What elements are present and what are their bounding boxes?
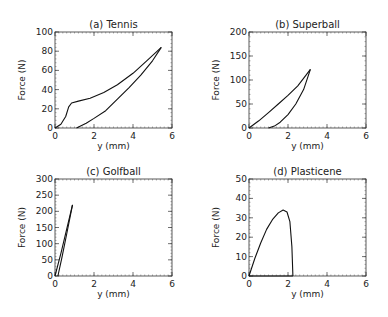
x-tick-label: 4 (324, 131, 330, 141)
x-tick-label: 0 (52, 279, 58, 289)
series-loading (249, 69, 310, 128)
x-tick-label: 6 (169, 131, 175, 141)
y-tick-label: 80 (42, 46, 54, 56)
x-tick-label: 2 (285, 279, 291, 289)
subplot-1: 0246050100150200(b) Superbally (mm)Force… (211, 19, 369, 151)
y-tick-label: 20 (236, 232, 248, 242)
y-tick-label: 30 (236, 213, 248, 223)
subplot-2: 0246050100150200250300(c) Golfbally (mm)… (17, 166, 175, 299)
y-tick-label: 150 (36, 223, 53, 233)
x-tick-label: 6 (169, 279, 175, 289)
x-tick-label: 4 (324, 279, 330, 289)
x-tick-label: 0 (246, 279, 252, 289)
x-tick-label: 0 (246, 131, 252, 141)
series-loading (249, 210, 293, 276)
y-axis-label: Force (N) (211, 207, 221, 248)
y-tick-label: 100 (36, 239, 53, 249)
x-tick-label: 2 (285, 131, 291, 141)
y-tick-label: 40 (236, 193, 248, 203)
y-tick-label: 0 (47, 123, 53, 133)
x-axis-label: y (mm) (291, 289, 324, 299)
axes-frame (249, 179, 366, 276)
subplot-title: (d) Plasticene (273, 166, 341, 177)
x-tick-label: 6 (363, 131, 369, 141)
series-loading (55, 47, 161, 128)
y-tick-label: 0 (241, 271, 247, 281)
y-tick-label: 200 (230, 27, 247, 37)
axes-frame (55, 32, 172, 128)
y-tick-label: 200 (36, 206, 53, 216)
figure-4-panel-force-plots: 0246020406080100(a) Tennisy (mm)Force (N… (0, 0, 388, 317)
x-tick-label: 2 (91, 279, 97, 289)
subplot-title: (b) Superball (275, 19, 340, 30)
y-tick-label: 150 (230, 51, 247, 61)
y-tick-label: 0 (241, 123, 247, 133)
y-axis-label: Force (N) (17, 207, 27, 248)
x-axis-label: y (mm) (97, 141, 130, 151)
y-tick-label: 60 (42, 65, 54, 75)
y-tick-label: 50 (42, 255, 54, 265)
y-tick-label: 100 (36, 27, 53, 37)
axes-frame (55, 179, 172, 276)
x-tick-label: 2 (91, 131, 97, 141)
series-unloading (58, 205, 73, 276)
y-tick-label: 50 (236, 99, 248, 109)
x-tick-label: 0 (52, 131, 58, 141)
x-axis-label: y (mm) (291, 141, 324, 151)
y-tick-label: 40 (42, 85, 54, 95)
x-axis-label: y (mm) (97, 289, 130, 299)
y-tick-label: 10 (236, 252, 248, 262)
y-axis-label: Force (N) (17, 60, 27, 101)
y-tick-label: 0 (47, 271, 53, 281)
x-tick-label: 6 (363, 279, 369, 289)
y-tick-label: 50 (236, 174, 248, 184)
subplot-title: (c) Golfball (86, 166, 141, 177)
y-tick-label: 300 (36, 174, 53, 184)
subplot-0: 0246020406080100(a) Tennisy (mm)Force (N… (17, 19, 175, 151)
subplot-title: (a) Tennis (89, 19, 137, 30)
x-tick-label: 4 (130, 279, 136, 289)
subplot-3: 024601020304050(d) Plasticeney (mm)Force… (211, 166, 369, 299)
y-axis-label: Force (N) (211, 60, 221, 101)
y-tick-label: 100 (230, 75, 247, 85)
y-tick-label: 20 (42, 104, 54, 114)
y-tick-label: 250 (36, 190, 53, 200)
x-tick-label: 4 (130, 131, 136, 141)
